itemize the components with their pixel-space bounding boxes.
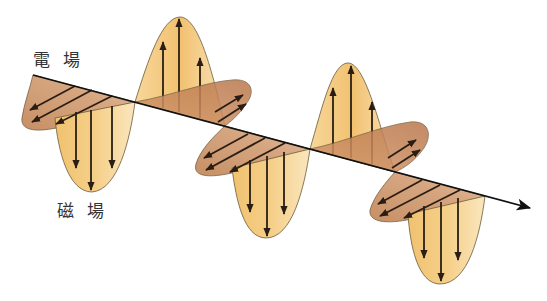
electric-field-label: 電 場 — [33, 52, 84, 69]
magnetic-field-lobe-1 — [55, 102, 135, 192]
electromagnetic-wave-diagram — [0, 0, 547, 301]
magnetic-field-label: 磁 場 — [57, 203, 108, 220]
